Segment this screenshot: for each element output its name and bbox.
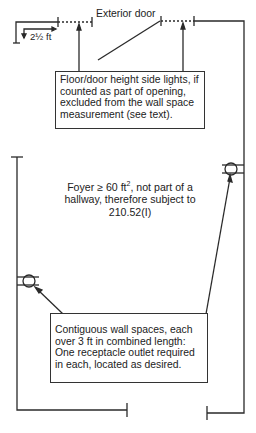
right-sidelight [161, 16, 194, 26]
receptacle-callout: Contiguous wall spaces, each over 3 ft i… [50, 313, 208, 383]
left-receptacle-icon [17, 275, 39, 287]
foyer-note-prefix: Foyer ≥ 60 ft [67, 181, 126, 193]
exterior-door-swing [98, 16, 161, 60]
foyer-note-line-3: 210.52(I) [30, 206, 230, 218]
callout-line: Contiguous wall spaces, each [55, 324, 203, 336]
exterior-door-label: Exterior door [96, 8, 155, 19]
dimension-label: 2½ ft [30, 31, 51, 42]
callout-line: One receptacle outlet required [55, 347, 203, 359]
sidelight-arrows [77, 23, 185, 73]
foyer-note: Foyer ≥ 60 ft2, not part of a hallway, t… [30, 181, 230, 218]
left-sidelight [58, 17, 92, 27]
foyer-note-line-2: hallway, therefore subject to [30, 193, 230, 205]
callout-line: in each, located as desired. [55, 359, 203, 371]
right-receptacle-icon [222, 163, 244, 175]
callout-line: counted as part of opening, [60, 86, 200, 98]
callout-line: measurement (see text). [60, 109, 200, 121]
callout-line: excluded from the wall space [60, 97, 200, 109]
foyer-note-line-1: Foyer ≥ 60 ft2, not part of a [30, 181, 230, 193]
callout-line: Floor/door height side lights, if [60, 74, 200, 86]
foyer-note-suffix: , not part of a [130, 181, 192, 193]
sidelight-callout: Floor/door height side lights, if counte… [55, 71, 205, 129]
callout-line: over 3 ft in combined length: [55, 336, 203, 348]
